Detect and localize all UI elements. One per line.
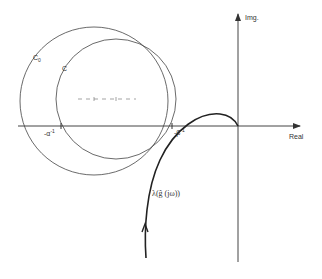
nyquist-diagram: Real Img. C0 C -α-1 -β-1 λ(ĝ (jω)) [0, 0, 322, 279]
c-label: C [62, 65, 67, 72]
imag-axis-label: Img. [245, 14, 259, 22]
alpha-label: -α-1 [44, 128, 55, 137]
real-axis-label: Real [289, 133, 304, 140]
c0-label: C0 [33, 54, 41, 63]
curve-label: λ(ĝ (jω)) [152, 189, 180, 198]
